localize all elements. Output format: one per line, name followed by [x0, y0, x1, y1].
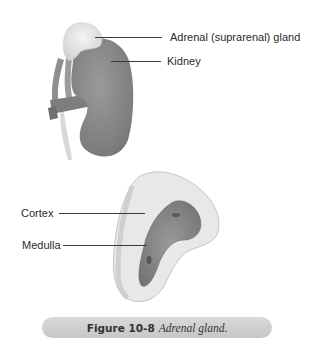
cortex-label: Cortex [21, 207, 53, 219]
cortex-leader-line [59, 213, 145, 214]
kidney-label: Kidney [167, 55, 201, 67]
medulla-leader-line [63, 245, 147, 246]
figure-caption: Figure 10-8 Adrenal gland. [42, 317, 272, 338]
adrenal-leader-line [95, 37, 162, 38]
figure-caption-text: Adrenal gland. [159, 322, 228, 334]
anatomy-illustration [0, 0, 310, 344]
medulla-label: Medulla [22, 239, 61, 251]
kidney-leader-line [111, 61, 161, 62]
figure-number: Figure 10-8 [87, 322, 155, 334]
adrenal-cross-section [113, 172, 219, 302]
adrenal-label: Adrenal (suprarenal) gland [170, 31, 300, 43]
kidney-illustration [48, 23, 133, 160]
